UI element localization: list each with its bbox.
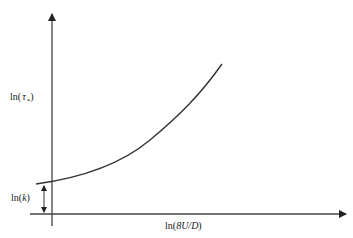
intercept-close: ) (27, 192, 30, 203)
x-label-body: 8U/D (176, 220, 198, 231)
y-axis-label: ln(τ*) (10, 91, 34, 105)
x-label-prefix: ln (165, 220, 173, 231)
x-label-close: ) (198, 220, 201, 231)
flow-curve (36, 64, 222, 184)
x-axis-label: ln(8U/D) (165, 220, 202, 231)
intercept-label: ln(k) (11, 192, 30, 203)
y-label-prefix: ln (10, 91, 18, 102)
y-label-close: ) (30, 91, 33, 102)
diagram-canvas (0, 0, 353, 238)
intercept-prefix: ln (11, 192, 19, 203)
